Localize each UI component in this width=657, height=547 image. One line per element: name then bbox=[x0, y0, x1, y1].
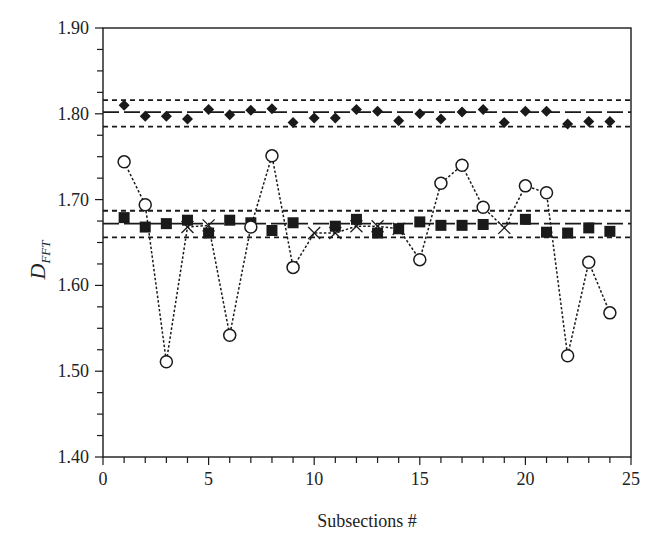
circle-marker bbox=[562, 350, 574, 362]
circle-marker bbox=[118, 156, 130, 168]
diamond-marker bbox=[604, 116, 615, 127]
circle-series-markers bbox=[118, 150, 616, 368]
diamond-marker bbox=[435, 113, 446, 124]
diamond-marker bbox=[203, 104, 214, 115]
circle-marker bbox=[583, 256, 595, 268]
square-series bbox=[119, 212, 616, 238]
diamond-marker bbox=[520, 106, 531, 117]
square-marker bbox=[224, 215, 235, 226]
chart: 0510152025 1.401.501.601.701.801.90 Subs… bbox=[0, 0, 657, 547]
x-tick-label: 10 bbox=[305, 469, 323, 489]
diamond-series bbox=[119, 100, 616, 130]
square-marker bbox=[414, 216, 425, 227]
circle-marker bbox=[160, 356, 172, 368]
circle-marker bbox=[224, 329, 236, 341]
diamond-marker bbox=[224, 109, 235, 120]
y-axis-ticks bbox=[95, 28, 103, 457]
square-marker bbox=[119, 212, 130, 223]
diamond-marker bbox=[457, 107, 468, 118]
square-marker bbox=[541, 227, 552, 238]
x-tick-label: 15 bbox=[411, 469, 429, 489]
diamond-marker bbox=[309, 113, 320, 124]
square-marker bbox=[161, 218, 172, 229]
diamond-marker bbox=[562, 119, 573, 130]
square-marker bbox=[520, 214, 531, 225]
square-marker bbox=[288, 217, 299, 228]
y-tick-label: 1.50 bbox=[58, 361, 90, 381]
circle-marker bbox=[477, 201, 489, 213]
circle-series-connector bbox=[124, 156, 610, 362]
square-marker bbox=[478, 219, 489, 230]
diamond-marker bbox=[541, 106, 552, 117]
square-marker bbox=[583, 222, 594, 233]
diamond-marker bbox=[351, 104, 362, 115]
y-tick-label: 1.40 bbox=[58, 447, 90, 467]
circle-marker bbox=[456, 159, 468, 171]
diamond-marker bbox=[583, 116, 594, 127]
circle-marker bbox=[414, 254, 426, 266]
circle-marker bbox=[435, 177, 447, 189]
x-axis-label: Subsections # bbox=[317, 511, 417, 531]
diamond-marker bbox=[393, 115, 404, 126]
y-axis-label-subscript: FFT bbox=[38, 240, 53, 265]
x-tick-label: 0 bbox=[99, 469, 108, 489]
plot-frame bbox=[103, 28, 631, 457]
circle-series-line bbox=[124, 156, 610, 362]
circle-marker bbox=[139, 199, 151, 211]
diamond-marker bbox=[414, 108, 425, 119]
circle-marker bbox=[604, 307, 616, 319]
square-marker bbox=[266, 225, 277, 236]
square-marker bbox=[140, 222, 151, 233]
x-tick-label: 25 bbox=[622, 469, 640, 489]
diamond-marker bbox=[478, 104, 489, 115]
x-axis-ticks bbox=[103, 457, 631, 465]
circle-marker bbox=[266, 150, 278, 162]
diamond-marker bbox=[372, 106, 383, 117]
plot-area: 0510152025 1.401.501.601.701.801.90 Subs… bbox=[0, 0, 657, 547]
diamond-marker bbox=[245, 105, 256, 116]
square-marker bbox=[435, 220, 446, 231]
y-axis-label: DFFT bbox=[25, 240, 53, 281]
square-marker bbox=[562, 228, 573, 239]
y-axis-tick-labels: 1.401.501.601.701.801.90 bbox=[58, 18, 90, 467]
square-marker bbox=[604, 226, 615, 237]
x-tick-label: 20 bbox=[516, 469, 534, 489]
diamond-marker bbox=[119, 100, 130, 111]
y-tick-label: 1.70 bbox=[58, 190, 90, 210]
circle-marker bbox=[519, 180, 531, 192]
y-axis-label-main: D bbox=[25, 264, 50, 281]
x-tick-label: 5 bbox=[204, 469, 213, 489]
y-tick-label: 1.60 bbox=[58, 275, 90, 295]
circle-marker bbox=[287, 261, 299, 273]
circle-marker bbox=[245, 221, 257, 233]
diamond-marker bbox=[330, 113, 341, 124]
y-tick-label: 1.80 bbox=[58, 104, 90, 124]
y-tick-label: 1.90 bbox=[58, 18, 90, 38]
x-axis-tick-labels: 0510152025 bbox=[99, 469, 641, 489]
diamond-marker bbox=[182, 113, 193, 124]
circle-marker bbox=[541, 187, 553, 199]
square-marker bbox=[457, 220, 468, 231]
